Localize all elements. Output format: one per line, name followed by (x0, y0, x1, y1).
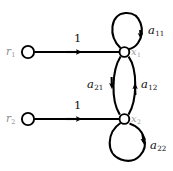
edge-label-x1-to-x2: a21 (87, 79, 103, 91)
node-state-2 (120, 114, 130, 124)
edge-label-self-loop-top: a11 (148, 25, 164, 37)
node-label-source-1: r1 (6, 46, 15, 57)
node-label-state-1: x1 (131, 47, 141, 57)
node-label-state-2: x2 (131, 114, 141, 124)
signal-flow-graph-figure: r1 r2 x1 x2 1 1 a11 a22 a21 a12 (0, 0, 173, 171)
node-label-source-2: r2 (6, 113, 15, 124)
node-source-2 (22, 113, 34, 125)
edge-label-self-loop-bottom: a22 (150, 140, 166, 152)
node-source-1 (22, 46, 34, 58)
edge-self-loop-top (112, 13, 141, 49)
edge-label-x2-to-x1: a12 (141, 79, 157, 91)
edge-x2-to-x1 (129, 57, 136, 115)
edge-label-input-1: 1 (74, 33, 81, 45)
edge-x1-to-x2 (112, 57, 121, 115)
edge-label-input-2: 1 (74, 100, 81, 112)
node-state-1 (120, 47, 130, 57)
edge-self-loop-bottom (110, 123, 145, 161)
